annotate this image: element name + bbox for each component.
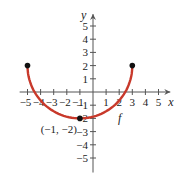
endpoint-dot	[25, 63, 31, 69]
minimum-point-dot	[77, 116, 83, 122]
y-axis-label: y	[80, 8, 87, 22]
y-tick-label: 5	[83, 20, 89, 32]
y-tick-label: −5	[76, 152, 88, 164]
y-tick-label: 2	[83, 60, 89, 72]
x-tick-label: 4	[143, 96, 149, 108]
endpoint-dot	[130, 63, 136, 69]
y-tick-label: 1	[83, 73, 89, 85]
function-graph: −5−4−3−2−112345−5−4−3−112345−2xy(−1, −2)…	[0, 0, 180, 178]
y-tick-label: −3	[76, 126, 88, 138]
x-tick-label: 1	[103, 96, 109, 108]
y-tick-label: 4	[83, 33, 89, 45]
x-tick-label: 3	[130, 96, 136, 108]
x-tick-label: 5	[156, 96, 162, 108]
x-tick-label: −5	[20, 96, 32, 108]
function-label-f: f	[118, 111, 123, 125]
y-tick-label: −4	[76, 139, 88, 151]
y-tick-label: −1	[76, 99, 88, 111]
minimum-point-label: (−1, −2)	[41, 123, 78, 136]
x-tick-label: −2	[59, 96, 71, 108]
x-axis-label: x	[167, 95, 174, 109]
y-tick-label: 3	[83, 46, 89, 58]
